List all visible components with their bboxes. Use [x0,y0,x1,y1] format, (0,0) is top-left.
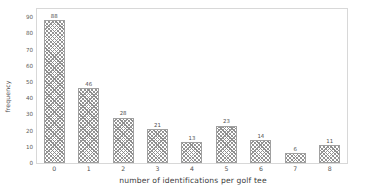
bar-value-label: 88 [51,14,58,19]
bar[interactable]: 461 [78,88,99,163]
bar-value-label: 11 [326,139,333,144]
bar-slot: 282 [106,9,140,163]
bar-slot: 461 [71,9,105,163]
x-axis-tick-label: 1 [87,166,91,172]
x-axis-tick-label: 4 [190,166,194,172]
x-axis-tick-label: 3 [156,166,160,172]
y-axis-tick-label: 70 [9,47,37,53]
bar-group: 88046128221313423514667118 [37,9,347,163]
bar-chart-figure: frequency 0102030405060708090 8804612822… [0,0,369,193]
y-axis-tick-label: 10 [9,144,37,150]
bar-slot: 146 [244,9,278,163]
y-axis-tick-label: 80 [9,30,37,36]
bar-value-label: 46 [85,82,92,87]
x-axis-tick-label: 5 [224,166,228,172]
bar-slot: 880 [37,9,71,163]
y-axis-tick-label: 30 [9,111,37,117]
bar[interactable]: 146 [250,140,271,163]
bar[interactable]: 880 [44,20,65,163]
bar[interactable]: 67 [285,153,306,163]
y-axis-tick-label: 50 [9,79,37,85]
bar-slot: 134 [175,9,209,163]
bar[interactable]: 134 [181,142,202,163]
bar-value-label: 28 [120,111,127,116]
bar[interactable]: 213 [147,129,168,163]
bar-slot: 235 [209,9,243,163]
bar-value-label: 14 [257,134,264,139]
y-axis-tick-label: 0 [9,160,37,166]
bar-slot: 213 [140,9,174,163]
bar-value-label: 21 [154,123,161,128]
bar[interactable]: 235 [216,126,237,163]
y-axis-tick-label: 90 [9,14,37,20]
x-axis-tick-label: 0 [52,166,56,172]
bar[interactable]: 118 [319,145,340,163]
bar-value-label: 23 [223,119,230,124]
y-axis-tick-label: 20 [9,128,37,134]
x-axis-tick-label: 6 [259,166,263,172]
bar-value-label: 13 [189,136,196,141]
y-axis-tick-label: 60 [9,63,37,69]
plot-area: 0102030405060708090 88046128221313423514… [36,8,348,164]
x-axis-tick-label: 7 [293,166,297,172]
y-axis-tick-label: 40 [9,95,37,101]
bar-slot: 67 [278,9,312,163]
bar-slot: 118 [313,9,347,163]
bar-value-label: 6 [294,147,297,152]
x-axis-title: number of identifications per golf tee [38,176,348,185]
x-axis-tick-label: 2 [121,166,125,172]
x-axis-tick-label: 8 [328,166,332,172]
bar[interactable]: 282 [113,118,134,163]
